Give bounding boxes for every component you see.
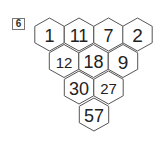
hexagon-value: 30: [69, 79, 89, 99]
hexagon-value: 11: [70, 26, 89, 46]
hexagon-value: 2: [132, 25, 143, 46]
hexagon-cell: 11: [64, 18, 93, 51]
hexagon-cell: 30: [64, 71, 93, 104]
hexagon-cell: 9: [108, 45, 137, 78]
hexagon-cell: 57: [79, 98, 108, 131]
hexagon-cell: 18: [79, 45, 108, 78]
hexagon-value: 27: [100, 80, 117, 97]
hexagon-pyramid: 1117212189302757: [0, 0, 160, 142]
hexagon-cell: 2: [123, 18, 152, 51]
hexagon-cell: 7: [94, 18, 123, 51]
hexagon-cell: 12: [49, 45, 78, 78]
hexagon-value: 7: [103, 26, 113, 46]
hexagon-value: 1: [44, 26, 54, 46]
hexagon-value: 9: [118, 52, 129, 73]
hexagon-value: 18: [83, 52, 103, 72]
hexagon-value: 12: [56, 54, 73, 71]
hexagon-cell: 27: [94, 71, 123, 104]
hexagon-cell: 1: [35, 18, 64, 51]
hexagon-value: 57: [84, 106, 104, 126]
